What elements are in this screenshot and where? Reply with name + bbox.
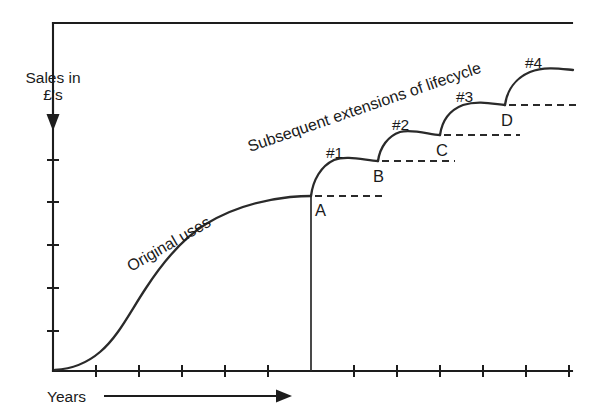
curve-extension-4: [505, 68, 573, 105]
chart-canvas: Sales in £'s Years Original uses Subsequ…: [0, 0, 598, 419]
x-axis-label: Years: [47, 388, 86, 405]
y-axis-label-line2: £'s: [43, 86, 63, 103]
curve-extension-3: [440, 103, 505, 135]
curve-original-uses: [55, 196, 311, 370]
point-label-d: D: [501, 111, 513, 129]
segment-label-1: #1: [326, 144, 343, 161]
product-lifecycle-chart: Sales in £'s Years Original uses Subsequ…: [0, 0, 598, 419]
point-label-c: C: [436, 141, 448, 159]
point-label-a: A: [315, 201, 326, 219]
curve-extension-2: [378, 131, 440, 161]
x-axis-arrow: [104, 390, 292, 403]
segment-label-3: #3: [456, 88, 473, 105]
curve-extension-1: [311, 158, 378, 196]
segment-label-4: #4: [525, 54, 543, 71]
point-label-b: B: [373, 167, 384, 185]
y-axis-label-line1: Sales in: [25, 69, 80, 86]
annotation-original-uses: Original uses: [124, 213, 213, 274]
segment-label-2: #2: [392, 116, 409, 133]
